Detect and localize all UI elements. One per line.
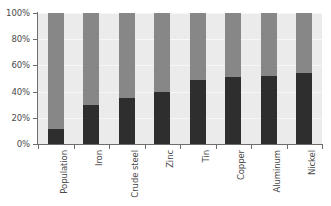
y-tick-mark [33, 118, 37, 119]
x-tick-mark [216, 145, 217, 149]
chart-container: 0%20%40%60%80%100% PopulationIronCrude s… [0, 0, 331, 206]
y-tick-mark [33, 65, 37, 66]
x-tick-mark [322, 145, 323, 149]
x-tick-mark [251, 145, 252, 149]
x-tick-label: Aluminum [273, 150, 282, 192]
x-tick-label: Zinc [166, 150, 175, 168]
x-tick-mark [38, 145, 39, 149]
y-tick-mark [33, 144, 37, 145]
x-tick-mark [145, 145, 146, 149]
x-axis: PopulationIronCrude steelZincTinCopperAl… [0, 0, 331, 206]
x-tick-mark [287, 145, 288, 149]
x-tick-mark [180, 145, 181, 149]
x-tick-mark [74, 145, 75, 149]
x-tick-label: Crude steel [131, 150, 140, 198]
y-tick-mark [33, 39, 37, 40]
x-tick-label: Nickel [308, 150, 317, 175]
x-tick-mark [109, 145, 110, 149]
y-tick-mark [33, 13, 37, 14]
x-tick-label: Copper [237, 150, 246, 180]
x-tick-label: Population [60, 150, 69, 194]
y-tick-mark [33, 92, 37, 93]
x-tick-label: Tin [202, 150, 211, 162]
x-tick-label: Iron [95, 150, 104, 166]
